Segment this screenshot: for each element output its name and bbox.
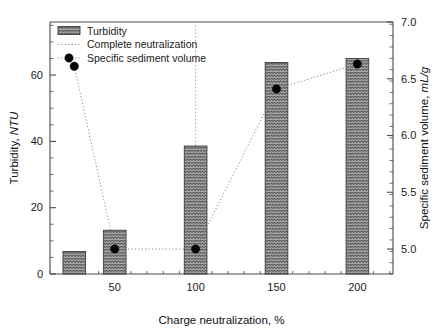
legend-label-1: Complete neutralization — [87, 38, 197, 50]
legend-swatch-turbidity — [58, 27, 80, 35]
y-right-ticklabel: 5.5 — [401, 186, 416, 198]
y-right-ticklabel: 5.0 — [401, 243, 416, 255]
legend-label-2: Specific sediment volume — [87, 52, 206, 64]
x-axis-title: Charge neutralization, % — [159, 314, 285, 326]
chart-figure: 02040605.05.56.06.57.050100150200Charge … — [0, 0, 441, 332]
y-left-ticklabel: 0 — [37, 268, 43, 280]
bar-turbidity-25[interactable] — [63, 251, 86, 274]
y-right-ticklabel: 7.0 — [401, 16, 416, 28]
x-ticklabel: 50 — [109, 281, 121, 293]
y-left-ticklabel: 40 — [31, 135, 43, 147]
bar-turbidity-150[interactable] — [265, 62, 288, 274]
legend-marker-sediment — [65, 54, 73, 62]
bar-turbidity-100[interactable] — [184, 146, 207, 274]
legend-label-0: Turbidity — [87, 25, 128, 37]
y-left-ticklabel: 20 — [31, 201, 43, 213]
y-axis-right-title: Specific sediment volume, mL/g — [418, 66, 430, 229]
y-axis-left-title: Turbidity, NTU — [8, 111, 20, 185]
turbidity-sediment-chart: 02040605.05.56.06.57.050100150200Charge … — [0, 0, 441, 332]
sediment-connector-line — [74, 64, 357, 249]
sediment-marker-200[interactable] — [353, 60, 361, 68]
bar-turbidity-200[interactable] — [346, 58, 369, 274]
y-left-ticklabel: 60 — [31, 69, 43, 81]
sediment-marker-25[interactable] — [70, 62, 78, 70]
x-ticklabel: 100 — [186, 281, 204, 293]
x-ticklabel: 150 — [267, 281, 285, 293]
y-right-ticklabel: 6.5 — [401, 73, 416, 85]
x-ticklabel: 200 — [348, 281, 366, 293]
sediment-marker-100[interactable] — [191, 245, 199, 253]
y-right-ticklabel: 6.0 — [401, 129, 416, 141]
sediment-marker-50[interactable] — [111, 245, 119, 253]
sediment-marker-150[interactable] — [272, 85, 280, 93]
